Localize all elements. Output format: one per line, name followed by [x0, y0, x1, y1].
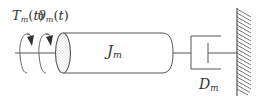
fixed-wall-ground [237, 8, 251, 96]
rotational-system-diagram: Tm(t) θm(t) Jm Dm [0, 0, 269, 103]
torque-symbol: T [12, 8, 21, 23]
inertia-subscript: m [113, 49, 122, 60]
cylinder-end-face [56, 33, 71, 73]
viscous-damper [191, 36, 237, 69]
inertia-label: Jm [107, 44, 122, 60]
angle-symbol: θ [38, 8, 46, 23]
damper-subscript: m [210, 83, 218, 93]
damper-symbol: D [199, 76, 210, 92]
damper-label: Dm [199, 77, 218, 93]
angle-label: θm(t) [38, 9, 69, 24]
